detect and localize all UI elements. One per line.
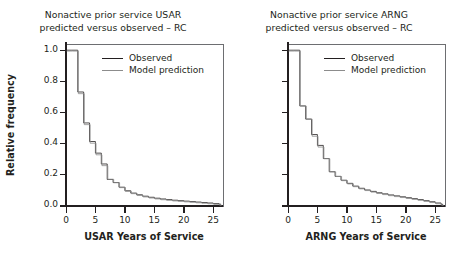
figure-two-panel-survival-curves: Nonactive prior service USAR predicted v… — [0, 0, 453, 262]
legend-label: Observed — [351, 52, 394, 64]
legend-label: Observed — [129, 52, 172, 64]
legend-label: Model prediction — [129, 64, 204, 76]
panel-arng: Nonactive prior service ARNG predicted v… — [226, 0, 452, 262]
legend-swatch-model-prediction — [324, 70, 345, 71]
plot-area-arng: 0510152025ObservedModel prediction — [226, 0, 452, 262]
legend-swatch-observed — [102, 58, 123, 59]
curves-svg — [226, 0, 452, 262]
legend-swatch-model-prediction — [102, 70, 123, 71]
x-axis-label-usar: USAR Years of Service — [36, 231, 252, 242]
plot-area-usar: 0.00.20.40.60.81.00510152025ObservedMode… — [0, 0, 226, 262]
legend-swatch-observed — [324, 58, 345, 59]
x-axis-label-arng: ARNG Years of Service — [258, 231, 453, 242]
curves-svg — [0, 0, 226, 262]
legend-label: Model prediction — [351, 64, 426, 76]
panel-usar: Nonactive prior service USAR predicted v… — [0, 0, 226, 262]
